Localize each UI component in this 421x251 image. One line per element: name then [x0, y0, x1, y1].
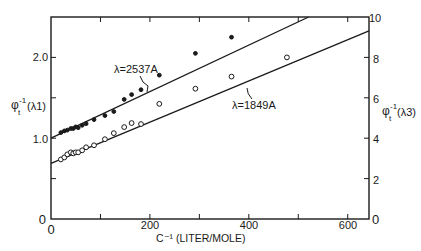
- x-axis-label: C⁻¹ (LITER/MOLE): [156, 232, 245, 244]
- filled-data-point: [112, 110, 116, 114]
- y-right-tick-label-4: 4: [373, 133, 379, 145]
- filled-data-point: [194, 51, 198, 55]
- filled-data-point: [139, 88, 143, 92]
- y-right-axis-label: φ -1 t (λ3): [382, 102, 416, 123]
- open-data-point: [129, 121, 134, 126]
- open-data-point: [229, 74, 234, 79]
- open-data-point: [193, 86, 198, 91]
- x-tick-label-600: 600: [339, 219, 357, 231]
- y-left-axis-label: φ -1 t (λ1): [11, 96, 46, 117]
- filled-data-point: [76, 126, 80, 130]
- open-data-point: [103, 137, 108, 142]
- filled-data-point: [130, 93, 134, 97]
- series-label-2537: λ=2537A: [114, 63, 158, 75]
- series-label-1849-pointer: [247, 88, 252, 99]
- open-data-point: [139, 122, 144, 127]
- svg-text:t: t: [18, 108, 21, 117]
- svg-text:(λ1): (λ1): [27, 100, 46, 112]
- filled-data-point: [84, 122, 88, 126]
- svg-text:t: t: [389, 114, 392, 123]
- fit-lines: [51, 17, 369, 163]
- y-right-tick-label-2: 2: [373, 174, 379, 186]
- filled-data-point: [122, 98, 126, 102]
- svg-text:-1: -1: [19, 96, 27, 105]
- chart: 0 200 400 600 C⁻¹ (LITER/MOLE) 0 1.0 2.0…: [0, 0, 421, 251]
- y-left-tick-label-0: 0: [39, 212, 46, 227]
- y-right-tick-label-8: 8: [373, 53, 379, 65]
- fit-line-2: [51, 31, 369, 163]
- open-data-point: [92, 143, 97, 148]
- open-data-point: [122, 125, 127, 130]
- filled-data-point: [80, 123, 84, 127]
- axis-ticks: [51, 17, 369, 219]
- y-left-tick-label-1: 1.0: [33, 133, 48, 145]
- y-right-tick-label-10: 10: [369, 12, 381, 24]
- x-tick-label-400: 400: [240, 219, 258, 231]
- series-label-1849: λ=1849A: [232, 99, 276, 111]
- plot-frame: [51, 17, 369, 219]
- filled-data-point: [157, 73, 161, 77]
- fit-line-1: [51, 17, 309, 138]
- x-tick-label-0: 0: [47, 222, 54, 237]
- open-data-point: [157, 101, 162, 106]
- filled-data-point: [230, 35, 234, 39]
- svg-text:(λ3): (λ3): [397, 106, 416, 118]
- filled-data-point: [92, 118, 96, 122]
- x-tick-label-200: 200: [141, 219, 159, 231]
- filled-data-point: [103, 114, 107, 118]
- y-right-tick-label-0: 0: [372, 212, 379, 227]
- open-data-point: [285, 55, 290, 60]
- open-data-point: [84, 145, 89, 150]
- y-left-tick-label-2: 2.0: [33, 51, 48, 63]
- open-data-point: [111, 131, 116, 136]
- y-right-tick-label-6: 6: [373, 93, 379, 105]
